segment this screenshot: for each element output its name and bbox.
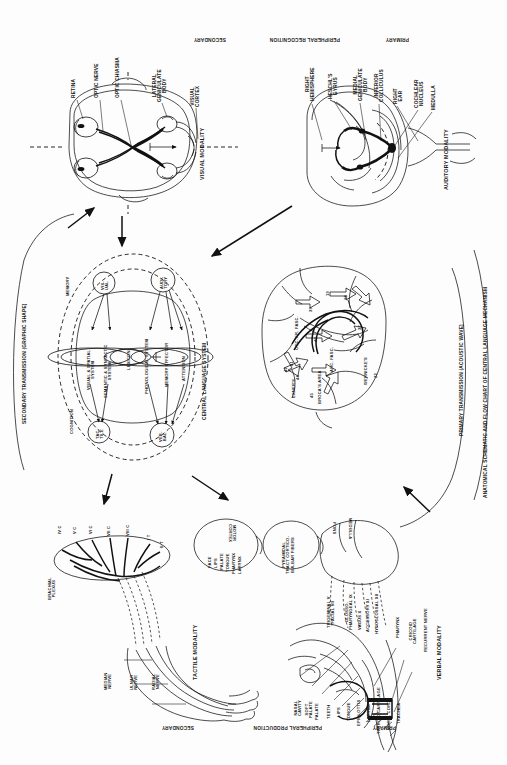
label-medial-geniculate-body: MEDIAL GENICULATE BODY [353, 68, 369, 101]
label-vocal-cords: VOCAL CORDS [387, 698, 391, 730]
modality-label-verbal: VERBAL MODALITY [437, 625, 443, 680]
label-radial-nerve: RADIAL NERVE [152, 673, 161, 690]
label-motor-cortex: MOTOR CORTEX [227, 524, 236, 542]
root-label-vi-c: VI C [89, 525, 93, 534]
modality-label-tactile: TACTILE MODALITY [193, 625, 199, 680]
module-lexicon[interactable]: LEXICON [127, 350, 131, 370]
node-auditory[interactable]: AUDI- TORY [160, 277, 169, 289]
modality-label-auditory: AUDITORY MODALITY [444, 129, 450, 190]
label-retina: RETINA [71, 79, 76, 98]
label-trachea: TRACHEA [397, 703, 401, 724]
flow-arrows [68, 206, 430, 512]
figure-canvas: SECONDARY PERIPHERAL RECOGNITION PRIMARY… [0, 0, 507, 765]
label-cognition-ring: COGNITION [70, 409, 74, 434]
label-optic-chiasma: OPTIC CHIASMA [115, 57, 120, 98]
somatotopy-face: FACE [208, 556, 212, 568]
area-number-41: 41 [290, 361, 294, 366]
root-label-viii-c: VIII C [126, 525, 130, 536]
root-label-v-c: V C [73, 527, 77, 534]
label-ulnar-nerve: ULNAR NERVE [130, 675, 139, 690]
cranial-nerve-hypoglossal: HYPOGLOSSAL XII [375, 594, 379, 634]
modality-label-visual: VISUAL MODALITY [200, 128, 206, 180]
area-number-19: 19 [326, 291, 330, 296]
band-label-bottom-left: SECONDARY [162, 725, 194, 730]
label-medulla: MEDULLA [431, 85, 436, 110]
cranial-nerve-vagus: VAGUS X [358, 610, 362, 630]
label-pons: PONS [332, 522, 336, 534]
band-label-top-right: PRIMARY [386, 37, 409, 42]
label-right-hemisphere: RIGHT HEMISPHERE [305, 67, 315, 101]
label-central-language-system: CENTRAL LANGUAGE SYSTEM [202, 343, 207, 420]
band-label-top-left: SECONDARY [194, 37, 226, 42]
module-memory-effector[interactable]: MEMORY EFFECTOR [165, 343, 169, 387]
transmission-label-primary: PRIMARY TRANSMISSION (ACOUSTIC WAVE) [459, 324, 464, 436]
module-attention[interactable]: ATTENTION [182, 356, 186, 381]
node-visual[interactable]: VIS- UAL [101, 281, 110, 290]
node-tactile[interactable]: TAC- TILE [96, 429, 105, 439]
somatotopy-pharynx: PHARYNX [232, 553, 236, 574]
label-recurrent-nerve: RECURRENT NERVE [424, 608, 428, 652]
somatotopy-larynx: LARYNX [238, 556, 242, 574]
area-number-40: 40 [314, 337, 318, 342]
module-visual-spatial[interactable]: VISUAL & SPATIAL SYSTEM [87, 350, 96, 390]
figure-title: ANATOMICAL SCHEMATIC AND FLOW CHART OF C… [483, 287, 488, 498]
area-number-39: 39 [309, 307, 313, 312]
module-phonological[interactable]: PHONOLOGICAL SYSTEM [145, 339, 149, 394]
area-number-45: 45 [310, 393, 314, 398]
label-lateral-geniculate-body: LATERAL GENICULATE BODY [152, 69, 168, 102]
label-nasal-cavity: NASAL CAVITY [294, 700, 303, 716]
label-memory-ring: MEMORY [66, 277, 70, 296]
somatotopy-tongue: TONGUE [226, 553, 230, 572]
line-art-layer [0, 0, 507, 765]
label-lips: LIPS [337, 707, 341, 717]
band-label-top-center: PERIPHERAL RECOGNITION [270, 37, 340, 42]
label-pyramidal-tract: PYRAMIDAL TRACT CORTICO- BULBAR FIBERS [282, 536, 295, 574]
label-palate: PALATE [315, 703, 319, 720]
label-heschls-gyrus: HESCHL'S GYRUS [328, 73, 338, 99]
label-visual-cortex: VISUAL CORTEX [190, 86, 200, 107]
area-number-42: 42 [284, 367, 288, 372]
auditory-brain-diagram [307, 86, 476, 206]
transmission-brackets [14, 214, 489, 527]
label-median-nerve: MEDIAN NERVE [104, 673, 113, 690]
label-cochlear-nucleus: COCHLEAR NUCLEUS [414, 79, 424, 108]
cranial-nerve-glossopharyngeal: GLOSSO- PHARYNGEAL IX [345, 594, 354, 630]
label-epiglottis: EPIGLOTTIS [357, 700, 361, 726]
label-teeth: TEETH [327, 705, 331, 719]
label-tongue: TONGUE [347, 702, 351, 721]
visual-brain-diagram [30, 72, 238, 214]
label-cricoid-cartilage: CRICOID CARTILAGE [409, 618, 418, 644]
label-soft-palate: SOFT PALATE [305, 701, 314, 718]
label-optic-nerve: OPTIC NERVE [94, 63, 99, 98]
root-label-iv-c: IV C [58, 525, 62, 534]
somatotopy-lips: LIPS [214, 558, 218, 568]
tract-wernickes: WERNICKE'S [364, 357, 368, 385]
root-label-ii-t: II T [160, 541, 164, 548]
label-pharynx: PHARYNX [396, 617, 400, 638]
tract-arc-fasc: ARC. FASC. [330, 347, 334, 372]
label-medulla: MEDULLA [348, 518, 352, 539]
area-number-18: 18 [344, 295, 348, 300]
label-right-ear: RIGHT EAR [393, 88, 403, 104]
band-label-bottom-center: PERIPHERAL PRODUCTION [253, 725, 322, 730]
cranial-nerve-accessory: ACCESSORY XI [366, 599, 370, 632]
label-thyroid-cartilage: THYROID CARTILAGE [377, 687, 381, 734]
module-semantic-syntactic[interactable]: SEMANTIC & SYNTACTIC SYSTEM [104, 344, 113, 398]
label-brachial-plexus: BRACHIAL PLEXUS [48, 577, 57, 600]
label-inferior-colliculus: INFERIOR COLLICULUS [374, 69, 384, 102]
tract-exners: EXNER'S [292, 379, 296, 398]
somatotopy-palate: PALATE [220, 553, 224, 570]
vocal-tract-diagram [288, 623, 412, 752]
brain-flowchart-diagram [262, 266, 386, 428]
area-number-22: 22 [374, 373, 378, 378]
root-label-vii-c: VII C [107, 526, 111, 536]
transmission-label-secondary: SECONDARY TRANSMISSION (GRAPHIC SHAPE) [22, 303, 27, 424]
area-number-37: 37 [358, 325, 362, 330]
node-verbal[interactable]: VER- BAL [159, 431, 168, 442]
area-number-44: 44 [296, 375, 300, 380]
cranial-nerve-trigeminal-facial: TRIGEMINAL V FACIAL VII [327, 596, 336, 628]
tract-occ-fr-fasc: OCC. FR. FASC. [295, 316, 299, 350]
tract-brocas-area: BROCA'S AREA [318, 370, 322, 404]
root-label-i-t: I T [147, 535, 151, 540]
label-larynx: LARYNX [367, 704, 371, 722]
